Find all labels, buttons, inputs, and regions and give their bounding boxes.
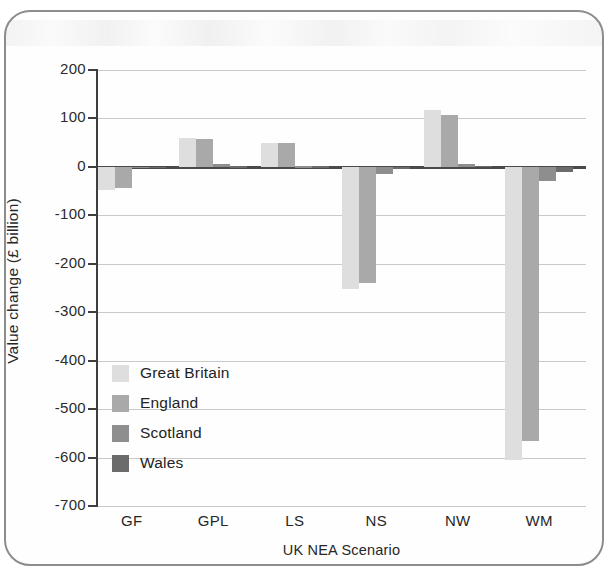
x-axis-label-ns: NS	[336, 512, 416, 529]
chart-legend: Great BritainEnglandScotlandWales	[112, 358, 230, 478]
bar	[475, 166, 492, 168]
y-tick-mark	[88, 311, 97, 313]
legend-item: Wales	[112, 448, 230, 478]
x-axis-label-nw: NW	[418, 512, 498, 529]
bar	[196, 139, 213, 167]
legend-label: Scotland	[140, 424, 202, 442]
legend-label: Wales	[140, 454, 184, 472]
bar	[230, 166, 247, 168]
x-axis-label-ls: LS	[255, 512, 335, 529]
bar	[278, 143, 295, 167]
y-tick-mark	[88, 117, 97, 119]
gridline	[97, 70, 586, 71]
bar	[505, 167, 522, 460]
x-axis-label-wm: WM	[499, 512, 579, 529]
y-tick-mark	[88, 263, 97, 265]
y-tick-mark	[88, 360, 97, 362]
y-tick-mark	[88, 505, 97, 507]
legend-item: Great Britain	[112, 358, 230, 388]
y-tick-mark	[88, 166, 97, 168]
y-tick-mark	[88, 457, 97, 459]
legend-item: Scotland	[112, 418, 230, 448]
x-axis-label-gpl: GPL	[173, 512, 253, 529]
legend-swatch-icon	[112, 395, 129, 412]
y-tick-mark	[88, 214, 97, 216]
bar	[132, 167, 149, 169]
gridline	[97, 118, 586, 119]
y-axis-title: Value change (£ billion)	[4, 101, 22, 461]
y-axis-line	[96, 69, 98, 507]
bar	[295, 166, 312, 168]
bar	[261, 143, 278, 167]
y-tick-mark	[88, 69, 97, 71]
bar	[359, 167, 376, 283]
x-axis-title: UK NEA Scenario	[97, 542, 586, 558]
bar	[98, 167, 115, 190]
bar	[424, 110, 441, 167]
legend-swatch-icon	[112, 425, 129, 442]
bar	[342, 167, 359, 289]
y-tick-label: -700	[0, 496, 86, 513]
bar	[539, 167, 556, 182]
legend-item: England	[112, 388, 230, 418]
bar	[115, 167, 132, 188]
bar-chart-figure: 2001000-100-200-300-400-500-600-700 Valu…	[0, 0, 612, 573]
bar	[522, 167, 539, 441]
bar	[149, 167, 166, 169]
bar	[376, 167, 393, 174]
bar	[393, 167, 410, 169]
legend-swatch-icon	[112, 455, 129, 472]
bar	[458, 164, 475, 166]
legend-swatch-icon	[112, 365, 129, 382]
y-tick-mark	[88, 408, 97, 410]
bar	[213, 164, 230, 166]
bar	[179, 138, 196, 167]
bar	[556, 167, 573, 172]
bar	[441, 115, 458, 167]
y-tick-label: 200	[0, 60, 86, 77]
legend-label: Great Britain	[140, 364, 230, 382]
gridline	[97, 506, 586, 507]
bar	[312, 166, 329, 168]
legend-label: England	[140, 394, 198, 412]
x-axis-label-gf: GF	[92, 512, 172, 529]
